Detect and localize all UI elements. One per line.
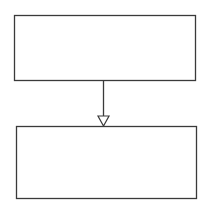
bottom-box (17, 127, 197, 199)
hollow-triangle-arrowhead-icon (98, 116, 109, 126)
diagram-canvas (0, 0, 208, 210)
top-box (15, 16, 196, 81)
